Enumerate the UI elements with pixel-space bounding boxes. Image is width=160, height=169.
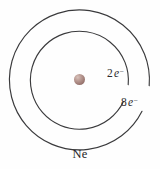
- inner-shell-electron-label: 2e−: [107, 68, 124, 80]
- nucleus-icon: [74, 74, 85, 85]
- outer-shell-charge-sign: −: [133, 96, 138, 105]
- bohr-model-diagram: 2e− 8e− Ne: [0, 0, 160, 169]
- outer-shell-electron-label: 8e−: [121, 97, 138, 109]
- element-symbol-label: Ne: [0, 148, 160, 161]
- inner-shell-charge-sign: −: [119, 67, 124, 76]
